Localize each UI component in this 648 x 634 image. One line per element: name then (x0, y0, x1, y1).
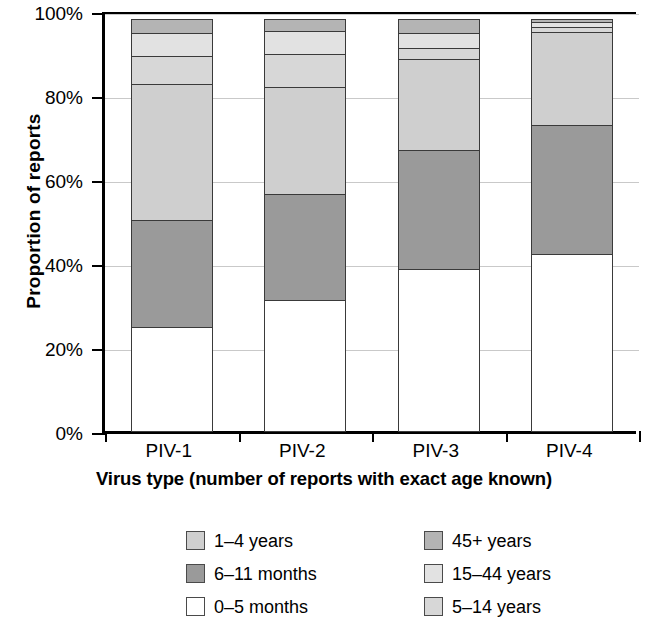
bar-segment (131, 220, 213, 329)
bar-segment (264, 87, 346, 196)
legend-swatch-icon (424, 564, 443, 583)
y-axis-tick-label: 0% (0, 424, 83, 443)
legend-item-label: 5–14 years (452, 598, 541, 616)
bar-segment (398, 269, 480, 433)
x-axis-tick (506, 431, 508, 442)
x-axis-label-piv-3: PIV-3 (376, 441, 496, 461)
y-axis-tick-label: 60% (0, 172, 83, 191)
bar-segment (131, 56, 213, 85)
bar-piv-3[interactable] (398, 19, 480, 431)
legend-item-label: 45+ years (452, 532, 532, 550)
legend-item-label: 15–44 years (452, 565, 551, 583)
y-axis-tick (92, 181, 105, 183)
legend-item[interactable]: 45+ years (424, 524, 551, 557)
y-axis-tick-label: 80% (0, 88, 83, 107)
bar-piv-2[interactable] (264, 19, 346, 431)
bar-segment (398, 59, 480, 151)
legend-item[interactable]: 6–11 months (186, 557, 317, 590)
bar-segment (531, 125, 613, 255)
y-axis-tick (92, 97, 105, 99)
bar-piv-4[interactable] (531, 19, 613, 431)
bar-segment (264, 31, 346, 56)
bar-segment (264, 194, 346, 301)
bar-piv-1[interactable] (131, 19, 213, 431)
x-axis-tick (639, 431, 641, 442)
bar-segment (264, 54, 346, 88)
y-axis-tick (92, 13, 105, 15)
legend-swatch-icon (186, 597, 205, 616)
legend-item[interactable]: 15–44 years (424, 557, 551, 590)
x-axis-title: Virus type (number of reports with exact… (0, 468, 648, 490)
bar-segment (398, 33, 480, 50)
x-axis-tick (239, 431, 241, 442)
y-axis-tick-label: 20% (0, 340, 83, 359)
y-axis-tick-label: 100% (0, 4, 83, 23)
x-axis-label-piv-1: PIV-1 (109, 441, 229, 461)
bar-segment (531, 32, 613, 127)
x-axis-label-piv-2: PIV-2 (242, 441, 362, 461)
legend-column-left: 1–4 years6–11 months0–5 months (186, 524, 317, 623)
x-axis-tick (372, 431, 374, 442)
x-axis-label-piv-4: PIV-4 (509, 441, 629, 461)
bar-segment (131, 84, 213, 221)
y-axis-tick (92, 265, 105, 267)
stacked-bar-chart-figure: Proportion of reports Virus type (number… (0, 0, 648, 634)
legend-item[interactable]: 5–14 years (424, 590, 551, 623)
legend-swatch-icon (186, 564, 205, 583)
legend-item-label: 0–5 months (214, 598, 308, 616)
legend-column-right: 45+ years15–44 years5–14 years (424, 524, 551, 623)
bar-segment (131, 33, 213, 58)
bar-segment (398, 150, 480, 270)
legend-item-label: 1–4 years (214, 532, 293, 550)
legend-item[interactable]: 0–5 months (186, 590, 317, 623)
bar-segment (531, 254, 613, 433)
legend-item-label: 6–11 months (214, 565, 317, 583)
gridline (105, 14, 639, 15)
bar-segment (264, 300, 346, 432)
x-axis-tick (105, 431, 107, 442)
plot-area (102, 14, 636, 434)
legend-swatch-icon (424, 597, 443, 616)
bar-segment (131, 327, 213, 432)
legend-swatch-icon (186, 531, 205, 550)
y-axis-tick (92, 433, 105, 435)
legend-swatch-icon (424, 531, 443, 550)
y-axis-tick (92, 349, 105, 351)
y-axis-tick-label: 40% (0, 256, 83, 275)
legend-item[interactable]: 1–4 years (186, 524, 317, 557)
